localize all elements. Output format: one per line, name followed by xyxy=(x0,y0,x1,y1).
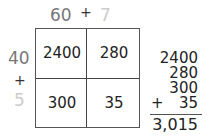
addend-35: 35 xyxy=(179,96,198,111)
plus-sign: + xyxy=(151,96,164,111)
cell-35: 35 xyxy=(88,96,140,111)
cell-300: 300 xyxy=(38,96,86,111)
top-plus-sign: + xyxy=(80,5,92,19)
side-label-40: 40 xyxy=(8,50,30,67)
top-label-7: 7 xyxy=(100,7,111,24)
top-label-60: 60 xyxy=(50,7,72,24)
side-label-5: 5 xyxy=(14,92,25,109)
cell-280: 280 xyxy=(88,46,140,61)
side-plus-sign: + xyxy=(14,73,26,87)
cell-2400: 2400 xyxy=(38,46,86,61)
grid-horizontal-divider xyxy=(36,78,139,79)
area-model-grid: 2400 280 300 35 xyxy=(35,28,140,128)
total-3015: 3,015 xyxy=(152,117,198,133)
